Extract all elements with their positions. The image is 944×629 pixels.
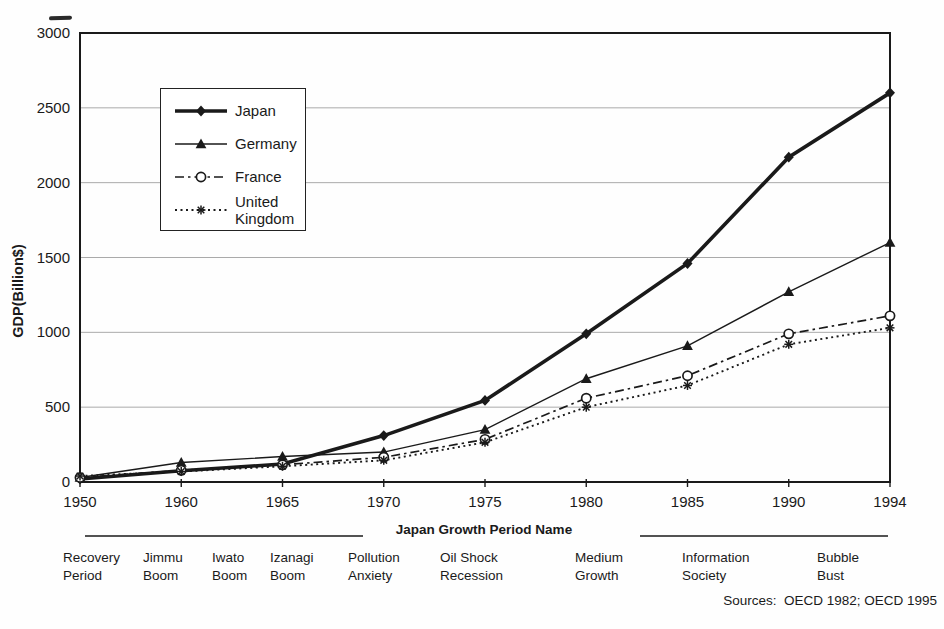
growth-period-label-oil-shock: Oil Shock Recession: [440, 549, 503, 585]
x-tick-label-1975: 1975: [455, 493, 515, 510]
france-marker-icon: [582, 394, 591, 403]
legend-item-france: France: [174, 160, 305, 193]
x-tick-label-1980: 1980: [556, 493, 616, 510]
united-kingdom-marker-icon: [76, 472, 85, 481]
legend-item-united-kingdom: United Kingdom: [174, 193, 305, 227]
growth-period-label-pollution: Pollution Anxiety: [348, 549, 400, 585]
x-tick-label-1970: 1970: [354, 493, 414, 510]
legend-label-japan: Japan: [235, 102, 276, 119]
legend-item-japan: Japan: [174, 94, 305, 127]
scan-artifact-dash: [49, 16, 72, 21]
legend-united-kingdom-marker-icon: [197, 206, 206, 215]
united-kingdom-marker-icon: [177, 467, 186, 476]
legend-france-marker-icon: [196, 172, 205, 181]
growth-period-label-information: Information Society: [682, 549, 750, 585]
legend-line-sample-united-kingdom: [174, 200, 228, 220]
y-tick-label-1500: 1500: [14, 250, 70, 266]
x-tick-label-1990: 1990: [759, 493, 819, 510]
legend: JapanGermanyFranceUnited Kingdom: [160, 88, 306, 231]
united-kingdom-marker-icon: [481, 438, 490, 447]
united-kingdom-marker-icon: [784, 340, 793, 349]
x-tick-label-1960: 1960: [151, 493, 211, 510]
growth-period-label-bubble: Bubble Bust: [817, 549, 859, 585]
growth-period-label-iwato: Iwato Boom: [212, 549, 247, 585]
germany-marker-icon: [885, 237, 896, 247]
y-tick-label-0: 0: [14, 474, 70, 490]
legend-label-germany: Germany: [235, 135, 297, 152]
x-tick-label-1985: 1985: [658, 493, 718, 510]
legend-line-sample-france: [174, 167, 228, 187]
united-kingdom-marker-icon: [683, 381, 692, 390]
legend-label-france: France: [235, 168, 282, 185]
france-marker-icon: [885, 311, 894, 320]
germany-marker-icon: [783, 286, 794, 296]
y-tick-label-2000: 2000: [14, 175, 70, 191]
sources-note: Sources: OECD 1982; OECD 1995: [723, 593, 937, 608]
y-tick-label-2500: 2500: [14, 100, 70, 116]
y-tick-label-1000: 1000: [14, 324, 70, 340]
legend-japan-marker-icon: [196, 105, 206, 116]
growth-period-label-izanagi: Izanagi Boom: [270, 549, 314, 585]
y-tick-label-500: 500: [14, 399, 70, 415]
united-kingdom-marker-icon: [278, 462, 287, 471]
legend-germany-marker-icon: [196, 138, 207, 148]
x-axis-title: Japan Growth Period Name: [378, 522, 590, 537]
united-kingdom-marker-icon: [886, 323, 895, 332]
x-tick-label-1994: 1994: [860, 493, 920, 510]
united-kingdom-marker-icon: [582, 403, 591, 412]
legend-line-sample-japan: [174, 101, 228, 121]
united-kingdom-marker-icon: [379, 456, 388, 465]
y-tick-label-3000: 3000: [14, 25, 70, 41]
legend-item-germany: Germany: [174, 127, 305, 160]
legend-line-sample-germany: [174, 134, 228, 154]
france-marker-icon: [683, 371, 692, 380]
france-marker-icon: [784, 329, 793, 338]
growth-period-label-jimmu: Jimmu Boom: [143, 549, 183, 585]
x-tick-label-1950: 1950: [50, 493, 110, 510]
growth-period-label-medium: Medium Growth: [575, 549, 623, 585]
germany-marker-icon: [480, 424, 491, 434]
germany-marker-icon: [682, 340, 693, 350]
growth-period-label-recovery: Recovery Period: [63, 549, 120, 585]
gdp-line-chart-figure: GDP(Billion$) 050010001500200025003000 1…: [0, 0, 944, 629]
legend-label-united-kingdom: United Kingdom: [235, 193, 294, 227]
japan-marker-icon: [379, 430, 389, 441]
x-tick-label-1965: 1965: [253, 493, 313, 510]
